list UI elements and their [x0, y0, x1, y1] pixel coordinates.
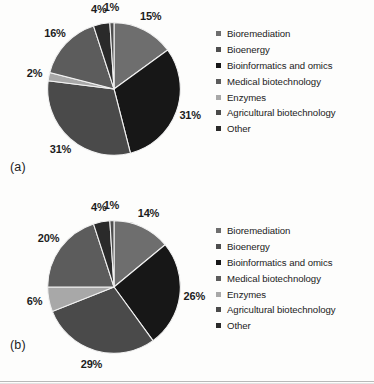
pie-data-label: 6%: [27, 295, 43, 307]
legend-label-agricultural-biotechnology: Agricultural biotechnology: [227, 304, 336, 315]
legend-marker-bioenergy: [216, 47, 221, 52]
pie-data-label: 2%: [27, 67, 43, 79]
legend-label-medical-biotechnology: Medical biotechnology: [227, 76, 321, 87]
legend-item-bioinformatics-and-omics: Bioinformatics and omics: [216, 58, 372, 74]
pie-data-label: 1%: [104, 199, 120, 211]
pie-data-label: 16%: [44, 27, 65, 39]
legend-label-medical-biotechnology: Medical biotechnology: [227, 273, 321, 284]
legend-marker-bioinformatics-and-omics: [216, 260, 221, 265]
pie-svg-a: [47, 22, 181, 156]
footer-divider: [0, 381, 374, 382]
pie-chart-b: [47, 220, 181, 354]
pie-svg-b: [47, 220, 181, 354]
figure-panel-b: 14%26%29%6%20%4%1% (b) Bioremediation Bi…: [0, 190, 374, 382]
legend-label-other: Other: [227, 123, 251, 134]
legend-a: Bioremediation Bioenergy Bioinformatics …: [216, 26, 372, 137]
legend-marker-enzymes: [216, 95, 221, 100]
legend-marker-other: [216, 126, 221, 131]
legend-label-bioinformatics-and-omics: Bioinformatics and omics: [227, 257, 332, 268]
legend-marker-bioremediation: [216, 228, 221, 233]
subfigure-label-a: (a): [10, 160, 26, 174]
legend-marker-agricultural-biotechnology: [216, 307, 221, 312]
legend-item-other: Other: [216, 318, 372, 334]
pie-data-label: 26%: [184, 290, 205, 302]
pie-data-label: 15%: [140, 10, 161, 22]
figure-panel-a: 15%31%31%2%16%4%1% (a) Bioremediation Bi…: [0, 0, 374, 192]
legend-item-medical-biotechnology: Medical biotechnology: [216, 73, 372, 89]
legend-item-medical-biotechnology: Medical biotechnology: [216, 270, 372, 286]
legend-label-agricultural-biotechnology: Agricultural biotechnology: [227, 107, 336, 118]
legend-label-enzymes: Enzymes: [227, 92, 266, 103]
legend-marker-bioenergy: [216, 244, 221, 249]
legend-item-bioenergy: Bioenergy: [216, 42, 372, 58]
pie-data-label: 20%: [38, 232, 59, 244]
legend-item-bioenergy: Bioenergy: [216, 239, 372, 255]
legend-item-bioremediation: Bioremediation: [216, 223, 372, 239]
legend-label-bioremediation: Bioremediation: [227, 28, 290, 39]
legend-item-enzymes: Enzymes: [216, 89, 372, 105]
legend-marker-bioinformatics-and-omics: [216, 63, 221, 68]
legend-marker-enzymes: [216, 292, 221, 297]
subfigure-label-b: (b): [10, 338, 26, 352]
legend-marker-agricultural-biotechnology: [216, 110, 221, 115]
pie-data-label: 31%: [50, 143, 71, 155]
legend-item-agricultural-biotechnology: Agricultural biotechnology: [216, 302, 372, 318]
legend-marker-other: [216, 323, 221, 328]
legend-b: Bioremediation Bioenergy Bioinformatics …: [216, 223, 372, 334]
legend-label-bioenergy: Bioenergy: [227, 241, 270, 252]
legend-marker-bioremediation: [216, 31, 221, 36]
legend-label-enzymes: Enzymes: [227, 289, 266, 300]
pie-data-label: 29%: [81, 358, 102, 370]
pie-data-label: 31%: [179, 109, 200, 121]
pie-data-label: 1%: [104, 1, 120, 13]
legend-label-bioinformatics-and-omics: Bioinformatics and omics: [227, 60, 332, 71]
pie-chart-a: [47, 22, 181, 156]
pie-data-label: 14%: [138, 207, 159, 219]
legend-item-other: Other: [216, 121, 372, 137]
legend-item-agricultural-biotechnology: Agricultural biotechnology: [216, 105, 372, 121]
legend-item-bioremediation: Bioremediation: [216, 26, 372, 42]
legend-item-enzymes: Enzymes: [216, 286, 372, 302]
legend-label-bioremediation: Bioremediation: [227, 225, 290, 236]
legend-label-other: Other: [227, 320, 251, 331]
legend-marker-medical-biotechnology: [216, 276, 221, 281]
legend-label-bioenergy: Bioenergy: [227, 44, 270, 55]
legend-item-bioinformatics-and-omics: Bioinformatics and omics: [216, 255, 372, 271]
legend-marker-medical-biotechnology: [216, 79, 221, 84]
